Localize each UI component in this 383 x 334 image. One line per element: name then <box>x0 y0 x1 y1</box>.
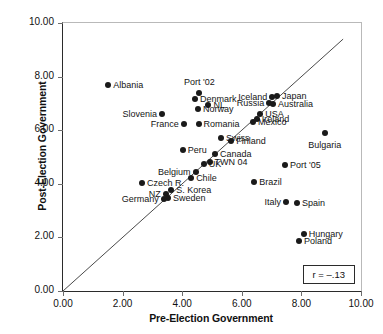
x-tick-label: 2.00 <box>113 298 132 309</box>
data-point <box>270 101 276 107</box>
data-point-label: Albania <box>113 81 143 90</box>
data-point <box>139 180 145 186</box>
y-tick-label: 4.00 <box>35 177 54 188</box>
data-point <box>296 238 302 244</box>
data-point-label: Chile <box>196 173 217 182</box>
data-point <box>283 199 289 205</box>
x-tick-label: 0.00 <box>53 298 72 309</box>
data-point <box>201 161 207 167</box>
x-tick-label: 8.00 <box>292 298 311 309</box>
data-point-label: Mexico <box>258 118 287 127</box>
diagonal-identity-line <box>63 23 361 291</box>
data-point <box>159 111 165 117</box>
data-point-label: Port '02 <box>184 77 215 86</box>
x-tick-label: 4.00 <box>172 298 191 309</box>
data-point <box>181 121 187 127</box>
x-axis-title: Pre-Election Government <box>62 312 360 324</box>
y-tick: 6.00 <box>58 130 63 131</box>
x-tick: 6.00 <box>242 291 243 296</box>
data-point-label: Spain <box>302 198 325 207</box>
data-point-label: Italy <box>264 197 281 206</box>
x-tick: 8.00 <box>301 291 302 296</box>
data-point <box>188 175 194 181</box>
data-point <box>294 200 300 206</box>
y-tick-label: 2.00 <box>35 230 54 241</box>
data-point-label: Peru <box>188 145 207 154</box>
data-point-label: Bulgaria <box>308 140 341 149</box>
data-point-label: UK <box>209 160 222 169</box>
data-point-label: Sweden <box>173 193 206 202</box>
data-point <box>282 162 288 168</box>
data-point-label: Brazil <box>259 178 282 187</box>
data-point-label: Slovenia <box>122 109 157 118</box>
y-tick: 8.00 <box>58 77 63 78</box>
data-point <box>218 135 224 141</box>
y-tick: 2.00 <box>58 237 63 238</box>
y-tick: 4.00 <box>58 184 63 185</box>
y-tick-label: 10.00 <box>29 16 54 27</box>
x-tick: 2.00 <box>123 291 124 296</box>
y-tick-label: 8.00 <box>35 70 54 81</box>
x-tick-label: 10.00 <box>348 298 373 309</box>
x-tick-label: 6.00 <box>232 298 251 309</box>
data-point-label: Germany <box>122 195 159 204</box>
x-tick: 0.00 <box>63 291 64 296</box>
x-tick: 4.00 <box>182 291 183 296</box>
data-point <box>322 130 328 136</box>
y-tick: 10.00 <box>58 23 63 24</box>
data-point <box>192 96 198 102</box>
y-tick-label: 6.00 <box>35 123 54 134</box>
plot-area: 0.002.004.006.008.0010.00 0.002.004.006.… <box>62 22 362 292</box>
data-point-label: Finland <box>236 137 266 146</box>
data-point-label: Russia <box>237 99 265 108</box>
y-tick-label: 0.00 <box>35 284 54 295</box>
data-point-label: France <box>151 120 179 129</box>
scatter-plot-figure: Post-Election Government Pre-Election Go… <box>0 0 383 334</box>
data-point-label: Romania <box>204 119 240 128</box>
correlation-annotation: r = –.13 <box>303 265 355 284</box>
data-point-label: Poland <box>304 236 332 245</box>
data-point <box>196 121 202 127</box>
x-tick: 10.00 <box>361 291 362 296</box>
data-point-label: Norway <box>203 105 234 114</box>
data-point-label: Port '05 <box>290 161 321 170</box>
data-point <box>180 147 186 153</box>
data-point-label: Belgium <box>158 167 191 176</box>
data-point-label: Australia <box>278 99 313 108</box>
